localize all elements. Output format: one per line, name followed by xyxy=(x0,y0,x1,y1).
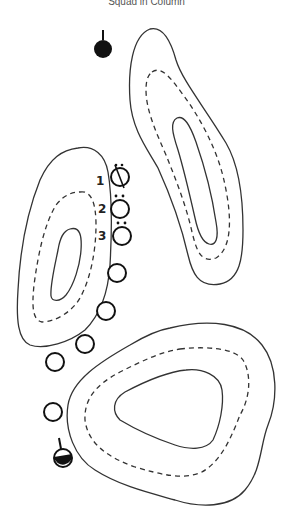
soldier-2: 2 xyxy=(98,195,129,218)
terrain-diagram: 1 2 3 xyxy=(0,0,293,532)
label-2: 2 xyxy=(98,202,106,216)
label-1: 1 xyxy=(96,174,104,188)
soldier-5 xyxy=(97,302,115,320)
soldier-6 xyxy=(76,335,94,353)
contour-middle xyxy=(85,348,249,476)
hill-lower-right xyxy=(67,323,275,505)
contour-inner xyxy=(173,117,218,244)
soldier-4 xyxy=(108,264,126,282)
contour-outer xyxy=(130,29,243,285)
soldier-3: 3 xyxy=(98,222,131,245)
label-3: 3 xyxy=(98,229,106,243)
contour-middle xyxy=(33,192,96,322)
soldier-7 xyxy=(46,353,64,371)
contour-inner xyxy=(51,228,81,300)
squad-leader-icon xyxy=(94,30,112,58)
soldier-1: 1 xyxy=(96,164,129,188)
hill-upper-right xyxy=(130,29,243,285)
soldier-8 xyxy=(44,403,62,421)
contour-inner xyxy=(115,370,223,449)
rear-element-icon xyxy=(54,438,72,467)
